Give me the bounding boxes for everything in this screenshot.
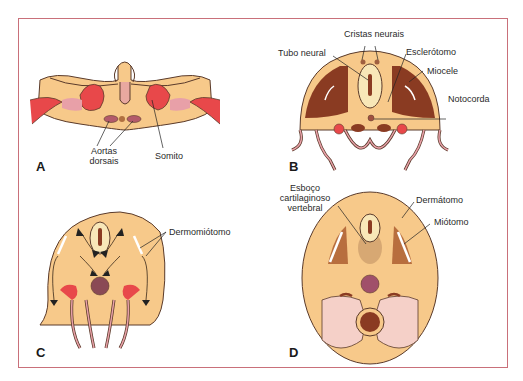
label-dermatomo: Dermátomo — [416, 195, 463, 205]
label-miotomo: Miótomo — [434, 217, 469, 227]
panel-letter-c: C — [36, 345, 45, 360]
label-miocele: Miocele — [427, 66, 458, 76]
label-esboco-cartilaginoso-vertebral: Esboço cartilaginoso vertebral — [275, 183, 335, 213]
label-tubo-neural: Tubo neural — [278, 48, 326, 58]
panel-c-illustration — [40, 212, 166, 348]
panel-letter-a: A — [36, 159, 45, 174]
label-dermomiotomo: Dermomiótomo — [169, 227, 231, 237]
panel-letter-b: B — [289, 159, 298, 174]
panel-d-illustration — [302, 192, 438, 364]
label-esclerotomo: Esclerótomo — [406, 47, 456, 57]
embryo-cross-sections-illustration — [0, 0, 523, 381]
label-notocorda: Notocorda — [448, 94, 490, 104]
panel-b-illustration — [292, 46, 448, 170]
label-aortas-dorsais: Aortas dorsais — [79, 146, 129, 166]
label-cristas-neurais: Cristas neurais — [344, 29, 404, 39]
label-somito: Somito — [155, 151, 183, 161]
panel-a-illustration — [30, 62, 220, 148]
panel-letter-d: D — [289, 345, 298, 360]
